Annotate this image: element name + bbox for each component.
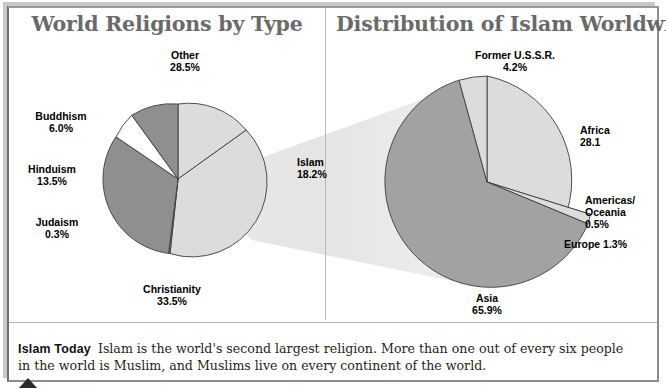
slice-label-judaism-value: 0.3%	[17, 228, 97, 240]
slice-label-judaism: Judaism 0.3%	[17, 216, 97, 240]
slice-label-christianity-name: Christianity	[143, 283, 201, 295]
slice-label-judaism-name: Judaism	[36, 216, 79, 228]
slice-label-americas-oceania-value: 0.5%	[585, 218, 651, 230]
slice-label-americas-oceania: Americas/ Oceania 0.5%	[585, 194, 651, 231]
slice-label-islam-name: Islam	[297, 156, 324, 168]
slice-label-asia-value: 65.9%	[437, 304, 537, 316]
slice-label-europe-name: Europe 1.3%	[564, 238, 627, 250]
slice-label-other: Other 28.5%	[140, 49, 230, 73]
slice-label-africa-name: Africa	[580, 124, 610, 136]
slice-label-africa-value: 28.1	[580, 136, 652, 148]
slice-label-hinduism: Hinduism 13.5%	[8, 163, 96, 187]
right-chart-title: Distribution of Islam Worldwide	[336, 12, 658, 36]
slice-label-former-ussr-name: Former U.S.S.R.	[475, 49, 555, 61]
slice-label-islam: Islam 18.2%	[297, 156, 357, 180]
slice-label-islam-value: 18.2%	[297, 168, 357, 180]
slice-label-former-ussr-value: 4.2%	[460, 61, 570, 73]
caption-lead: Islam Today	[18, 342, 91, 356]
infographic-page: World Religions by Type Distribution of …	[0, 0, 666, 389]
slice-label-americas-name: Americas/	[585, 194, 635, 206]
pie-islam-distribution	[385, 76, 590, 287]
left-chart-title: World Religions by Type	[12, 12, 322, 36]
pie-world-religions	[103, 103, 267, 257]
slice-label-christianity: Christianity 33.5%	[112, 283, 232, 307]
slice-label-buddhism-value: 6.0%	[18, 122, 104, 134]
slice-label-africa: Africa 28.1	[580, 124, 652, 148]
caption-text: Islam is the world's second largest reli…	[18, 341, 623, 373]
slice-label-other-name: Other	[171, 49, 199, 61]
caption-block: Islam TodayIslam is the world's second l…	[18, 341, 638, 374]
slice-label-former-ussr: Former U.S.S.R. 4.2%	[460, 49, 570, 73]
slice-label-hinduism-name: Hinduism	[28, 163, 76, 175]
slice-label-asia-name: Asia	[476, 292, 498, 304]
caption-divider	[9, 322, 657, 323]
triangle-marker-icon	[19, 378, 37, 388]
slice-label-oceania-name: Oceania	[585, 206, 651, 218]
slice-label-hinduism-value: 13.5%	[8, 175, 96, 187]
slice-label-buddhism: Buddhism 6.0%	[18, 110, 104, 134]
slice-label-other-value: 28.5%	[140, 61, 230, 73]
slice-label-europe: Europe 1.3%	[564, 238, 654, 250]
slice-label-christianity-value: 33.5%	[112, 295, 232, 307]
slice-label-buddhism-name: Buddhism	[35, 110, 86, 122]
slice-label-asia: Asia 65.9%	[437, 292, 537, 316]
